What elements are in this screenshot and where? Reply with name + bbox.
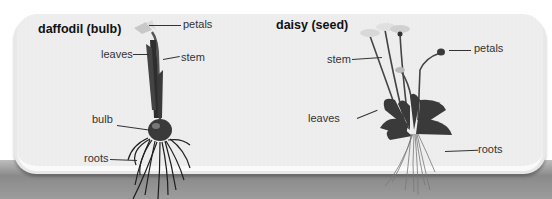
- leader-daffodil-leaves: [133, 54, 149, 55]
- leader-daisy-petals: [449, 50, 471, 51]
- label-daisy-leaves: leaves: [308, 112, 340, 124]
- label-daisy-roots: roots: [478, 143, 502, 155]
- label-daffodil-roots: roots: [84, 152, 108, 164]
- label-daffodil-leaves: leaves: [101, 48, 133, 60]
- label-daffodil-bulb: bulb: [92, 113, 113, 125]
- label-daffodil-petals: petals: [183, 18, 212, 30]
- daisy-title: daisy (seed): [276, 18, 348, 32]
- daffodil-title: daffodil (bulb): [38, 22, 121, 36]
- daisy-illustration: [360, 23, 452, 195]
- label-daisy-petals: petals: [474, 42, 503, 54]
- daffodil-illustration: [128, 20, 190, 199]
- leader-daffodil-petals: [149, 25, 181, 26]
- label-daffodil-stem: stem: [181, 51, 205, 63]
- label-daisy-stem: stem: [327, 53, 351, 65]
